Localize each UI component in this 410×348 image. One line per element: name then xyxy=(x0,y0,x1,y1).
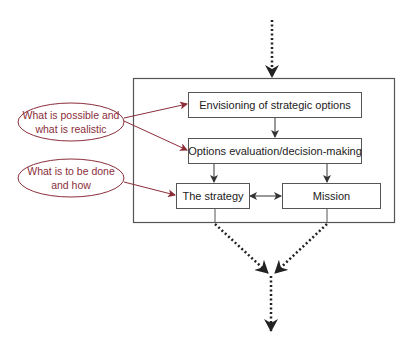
box-mission: Mission xyxy=(282,183,381,209)
output-dotted-arrow-left xyxy=(215,224,268,273)
annotation-todo-text: What is to be done and how xyxy=(18,160,124,197)
box-envisioning: Envisioning of strategic options xyxy=(188,92,362,118)
output-dotted-arrow-right xyxy=(275,224,327,273)
box-strategy: The strategy xyxy=(176,183,250,209)
annotation-possible-text: What is possible and what is realistic xyxy=(18,104,124,141)
annotation-arrow-to-strategy xyxy=(124,182,175,195)
box-options-evaluation: Options evaluation/decision-making xyxy=(188,138,362,164)
